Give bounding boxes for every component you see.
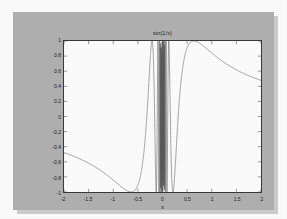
y-tick-label: -0.2: [47, 129, 61, 135]
y-tick-label: -0.6: [47, 159, 61, 165]
x-tick-label: -0.5: [133, 196, 142, 202]
y-tick-label: 0.8: [47, 52, 61, 58]
y-tick-label: -0.8: [47, 175, 61, 181]
y-tick-label: -0.4: [47, 144, 61, 150]
y-tick-label: -1: [47, 190, 61, 196]
x-tick-label: 2: [261, 196, 264, 202]
x-tick-label: -2: [61, 196, 65, 202]
x-tick-label: -1.5: [84, 196, 93, 202]
plot-canvas: [64, 41, 261, 192]
y-tick-label: 0.4: [47, 83, 61, 89]
data-series-line: [64, 41, 261, 192]
x-tick-label: 0: [161, 196, 164, 202]
x-tick-label: 1: [211, 196, 214, 202]
x-tick-label: 1.5: [234, 196, 241, 202]
figure-window: sin(1/x) -2-1.5-1-0.500.511.52 -1-0.8-0.…: [13, 12, 274, 210]
y-tick-label: 0.2: [47, 98, 61, 104]
figure-screenshot: sin(1/x) -2-1.5-1-0.500.511.52 -1-0.8-0.…: [0, 0, 287, 219]
page-title: sin(1/x): [63, 29, 262, 37]
x-tick-label: -1: [111, 196, 115, 202]
y-tick-label: 0: [47, 114, 61, 120]
y-tick-label: 0.6: [47, 68, 61, 74]
x-tick-label: 0.5: [184, 196, 191, 202]
x-axis-label: x: [63, 204, 262, 211]
plot-axes: [63, 40, 262, 193]
y-tick-label: 1: [47, 37, 61, 43]
